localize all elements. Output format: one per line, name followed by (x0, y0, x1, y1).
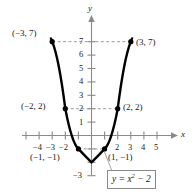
point-label-3-7: (3, 7) (136, 38, 156, 47)
data-point-3-7 (128, 39, 133, 44)
y-tick-label-4: 4 (79, 77, 83, 86)
y-tick-label-2: 2 (79, 104, 83, 113)
point-label--1--1: (−1, −1) (30, 153, 60, 162)
data-point-2-2 (115, 106, 120, 111)
x-tick-label-2: 2 (115, 143, 119, 152)
y-tick-label-1: 1 (79, 118, 83, 127)
y-axis-arrow (88, 15, 94, 22)
x-tick-label--3: −3 (46, 143, 55, 152)
point-label-2-2: (2, 2) (123, 103, 143, 112)
x-tick-label-5: 5 (154, 143, 158, 152)
equation-callout-box: y = x2 − 2 (107, 170, 156, 189)
point-label-1--1: (1, −1) (108, 153, 133, 162)
data-point--3-7 (50, 39, 55, 44)
y-tick-label--3: −3 (73, 171, 82, 180)
equation-head: y = x (112, 174, 132, 184)
y-tick-label-6: 6 (79, 50, 83, 59)
y-tick-label-3: 3 (79, 91, 83, 100)
data-point--1--1 (76, 146, 81, 151)
y-axis-label: y (88, 4, 92, 13)
point-label--3-7: (−3, 7) (12, 29, 37, 38)
y-tick-label-7: 7 (79, 37, 83, 46)
point-label--2-2: (−2, 2) (21, 102, 46, 111)
data-point-1--1 (102, 146, 107, 151)
x-tick-label--4: −4 (33, 143, 42, 152)
x-axis-label: x (181, 130, 185, 139)
x-axis-arrow (171, 132, 178, 139)
equation-tail: − 2 (135, 174, 151, 184)
y-tick-label-5: 5 (79, 64, 83, 73)
parabola-figure: y x −4 −3 −2 2 3 4 5 7 6 5 4 3 2 1 −3 (−… (0, 0, 192, 194)
data-point--2-2 (63, 106, 68, 111)
x-tick-label-4: 4 (141, 143, 145, 152)
x-tick-label--2: −2 (59, 143, 68, 152)
x-tick-label-3: 3 (128, 143, 132, 152)
